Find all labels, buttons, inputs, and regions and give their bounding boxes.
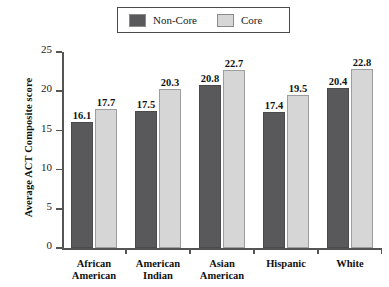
bar-core[interactable]: 22.7	[223, 70, 245, 248]
category-label-line: American	[190, 270, 254, 282]
y-axis-tick: 25	[56, 51, 62, 53]
bar-value-label: 17.7	[97, 97, 115, 108]
category-label-line: Indian	[126, 270, 190, 282]
category-label-line: Asian	[190, 258, 254, 270]
y-axis-tick: 20	[56, 90, 62, 92]
x-axis-tick	[317, 248, 319, 254]
x-axis-tick	[253, 248, 255, 254]
chart-legend: Non-Core Core	[117, 7, 290, 33]
category-label-line: African	[62, 258, 126, 270]
bar-value-label: 20.8	[201, 73, 219, 84]
x-axis-tick	[125, 248, 127, 254]
legend-entry-non-core[interactable]: Non-Core	[129, 12, 197, 29]
bar-value-label: 20.4	[329, 76, 347, 87]
bar-non-core[interactable]: 17.5	[135, 111, 157, 248]
legend-label-core: Core	[241, 14, 262, 27]
y-axis-tick-label: 20	[41, 82, 52, 95]
y-axis-tick: 15	[56, 130, 62, 132]
y-axis-tick-label: 0	[47, 239, 53, 252]
bar-non-core[interactable]: 20.8	[199, 85, 221, 248]
x-axis-category-label: AsianAmerican	[190, 258, 254, 282]
bar-chart: Non-Core Core Average ACT Composite scor…	[0, 0, 389, 287]
legend-label-non-core: Non-Core	[153, 14, 197, 27]
category-label-line: American	[62, 270, 126, 282]
bar-non-core[interactable]: 20.4	[327, 88, 349, 248]
x-axis-category-label: White	[318, 258, 382, 270]
x-axis-line	[62, 248, 382, 250]
legend-entry-core[interactable]: Core	[217, 12, 262, 29]
y-axis-tick-label: 25	[41, 43, 52, 56]
y-axis-tick-label: 5	[47, 200, 53, 213]
bar-value-label: 17.4	[265, 100, 283, 111]
bar-core[interactable]: 20.3	[159, 89, 181, 248]
x-axis-tick	[189, 248, 191, 254]
y-axis-tick: 5	[56, 208, 62, 210]
plot-area: 0510152025 16.117.717.520.320.822.717.41…	[62, 52, 382, 248]
bar-core[interactable]: 19.5	[287, 95, 309, 248]
bar-value-label: 20.3	[161, 77, 179, 88]
x-axis-category-label: AfricanAmerican	[62, 258, 126, 282]
bar-core[interactable]: 22.8	[351, 69, 373, 248]
x-axis-tick	[381, 248, 383, 254]
bar-value-label: 19.5	[289, 83, 307, 94]
category-label-line: American	[126, 258, 190, 270]
bar-non-core[interactable]: 17.4	[263, 112, 285, 248]
bar-value-label: 22.8	[353, 57, 371, 68]
y-axis-tick: 0	[56, 247, 62, 249]
y-axis-title: Average ACT Composite score	[23, 58, 34, 238]
category-label-line: White	[318, 258, 382, 270]
x-axis-category-label: AmericanIndian	[126, 258, 190, 282]
x-axis-category-label: Hispanic	[254, 258, 318, 270]
y-axis-line	[62, 52, 64, 248]
bar-value-label: 17.5	[137, 99, 155, 110]
category-label-line: Hispanic	[254, 258, 318, 270]
bar-value-label: 16.1	[73, 110, 91, 121]
light-gray-swatch-icon	[217, 14, 234, 27]
y-axis-tick: 10	[56, 169, 62, 171]
bar-value-label: 22.7	[225, 58, 243, 69]
dark-gray-swatch-icon	[129, 14, 146, 27]
bar-core[interactable]: 17.7	[95, 109, 117, 248]
y-axis-tick-label: 10	[41, 161, 52, 174]
bar-non-core[interactable]: 16.1	[71, 122, 93, 248]
y-axis-tick-label: 15	[41, 122, 52, 135]
